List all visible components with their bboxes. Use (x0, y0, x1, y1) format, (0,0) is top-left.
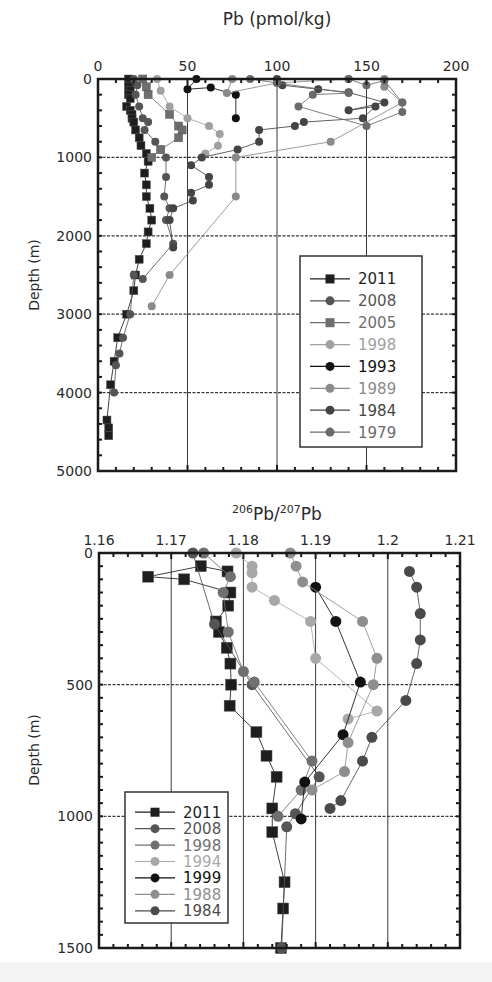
title-pb-1: Pb/ (253, 504, 280, 524)
data-point-circle (184, 114, 192, 122)
data-point-circle (247, 567, 258, 578)
data-point-circle (281, 821, 292, 832)
data-point-circle (232, 114, 240, 122)
legend-label: 1989 (358, 380, 396, 398)
data-point-square (135, 134, 143, 142)
data-point-circle (169, 244, 177, 252)
data-point-circle (223, 627, 234, 638)
data-point-circle (335, 795, 346, 806)
data-point-circle (305, 616, 316, 627)
top-y-axis-label: Depth (m) (26, 239, 42, 311)
data-point-square (105, 424, 113, 432)
data-point-circle (296, 813, 307, 824)
top-y-tick-labels: 010002000300040005000 (56, 71, 92, 479)
data-point-circle (110, 389, 118, 397)
data-point-square (141, 169, 149, 177)
legend-marker-circle (151, 906, 160, 915)
data-point-square (179, 574, 190, 585)
y-tick-label: 0 (84, 545, 93, 561)
data-point-circle (166, 271, 174, 279)
data-point-circle (411, 582, 422, 593)
data-point-square (142, 181, 150, 189)
data-point-square (146, 204, 154, 212)
data-point-circle (184, 85, 192, 93)
data-point-circle (255, 126, 263, 134)
data-point-square (132, 126, 140, 134)
data-point-circle (216, 130, 224, 138)
legend-marker-square (326, 274, 335, 283)
x-tick-label: 200 (443, 58, 470, 74)
series-1988 (285, 548, 383, 796)
data-point-circle (359, 114, 367, 122)
data-point-circle (404, 566, 415, 577)
x-tick-label: 1.19 (300, 532, 331, 548)
y-tick-label: 5000 (56, 463, 92, 479)
data-point-circle (310, 653, 321, 664)
legend-label: 1979 (358, 424, 396, 442)
x-tick-label: 150 (353, 58, 380, 74)
data-point-circle (269, 595, 280, 606)
data-point-square (142, 193, 150, 201)
data-point-circle (151, 138, 159, 146)
data-point-square (144, 91, 152, 99)
data-point-circle (160, 193, 168, 201)
legend-marker-circle (151, 841, 160, 850)
legend-marker-circle (326, 406, 335, 415)
legend-marker-circle (151, 890, 160, 899)
data-point-square (103, 416, 111, 424)
data-point-square (148, 216, 156, 224)
title-superscript-207: 207 (280, 503, 301, 516)
legend-label: 1988 (183, 886, 221, 904)
x-tick-label: 0 (94, 58, 103, 74)
footer-band (0, 962, 492, 982)
data-point-circle (371, 653, 382, 664)
data-point-circle (166, 216, 174, 224)
data-point-circle (371, 706, 382, 717)
data-point-circle (126, 310, 134, 318)
data-point-circle (255, 138, 263, 146)
data-point-square (225, 658, 236, 669)
data-point-circle (325, 803, 336, 814)
series-line (250, 79, 402, 126)
y-tick-label: 2000 (56, 228, 92, 244)
data-point-circle (144, 118, 152, 126)
data-point-circle (327, 138, 335, 146)
top-chart-title: Pb (pmol/kg) (223, 9, 332, 29)
data-point-square (261, 750, 272, 761)
legend-marker-circle (326, 384, 335, 393)
data-point-square (105, 432, 113, 440)
data-point-circle (339, 766, 350, 777)
data-point-circle (306, 756, 317, 767)
x-tick-label: 1.2 (377, 532, 399, 548)
x-tick-label: 100 (264, 58, 291, 74)
data-point-square (251, 727, 262, 738)
data-point-circle (273, 811, 284, 822)
series-line (236, 553, 377, 719)
bottom-chart-title: 206Pb/207Pb (232, 503, 322, 524)
data-point-circle (411, 658, 422, 669)
legend-label: 2008 (183, 820, 221, 838)
y-tick-label: 1500 (57, 940, 93, 956)
data-point-circle (198, 153, 206, 161)
legend-label: 1993 (358, 358, 396, 376)
data-point-circle (398, 108, 406, 116)
data-point-circle (343, 737, 354, 748)
top-x-tick-labels: 050100150200 (94, 58, 470, 74)
data-point-circle (371, 102, 379, 110)
data-point-circle (115, 349, 123, 357)
chart-canvas: Pb (pmol/kg) 050100150200 01000200030004… (0, 0, 492, 982)
legend-label: 1984 (358, 402, 396, 420)
data-point-circle (357, 756, 368, 767)
legend-label: 2005 (358, 314, 396, 332)
data-point-circle (400, 695, 411, 706)
top-chart: Pb (pmol/kg) 050100150200 01000200030004… (26, 9, 469, 479)
data-point-circle (300, 118, 308, 126)
data-point-circle (141, 126, 149, 134)
data-point-circle (166, 102, 174, 110)
y-tick-label: 0 (83, 71, 92, 87)
bottom-x-tick-labels: 1.161.171.181.191.21.21 (83, 532, 475, 548)
data-point-circle (415, 608, 426, 619)
data-point-circle (139, 275, 147, 283)
legend-marker-square (151, 808, 160, 817)
data-point-square (226, 679, 237, 690)
